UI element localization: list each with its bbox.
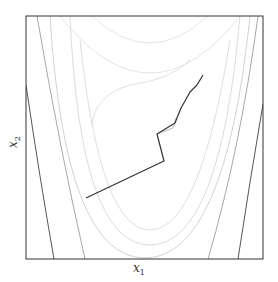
contour-plot: x1 x2: [0, 0, 278, 282]
